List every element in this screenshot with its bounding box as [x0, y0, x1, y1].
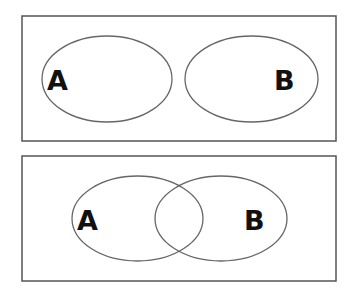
disjoint-sets-diagram: A B	[22, 16, 336, 141]
venn-diagrams: A B A B	[0, 0, 355, 293]
set-b-label: B	[274, 65, 295, 96]
universal-set-frame	[22, 156, 336, 281]
set-a-label: A	[47, 65, 68, 96]
set-a-label: A	[77, 205, 98, 236]
set-b-label: B	[244, 205, 265, 236]
overlapping-sets-diagram: A B	[22, 156, 336, 281]
